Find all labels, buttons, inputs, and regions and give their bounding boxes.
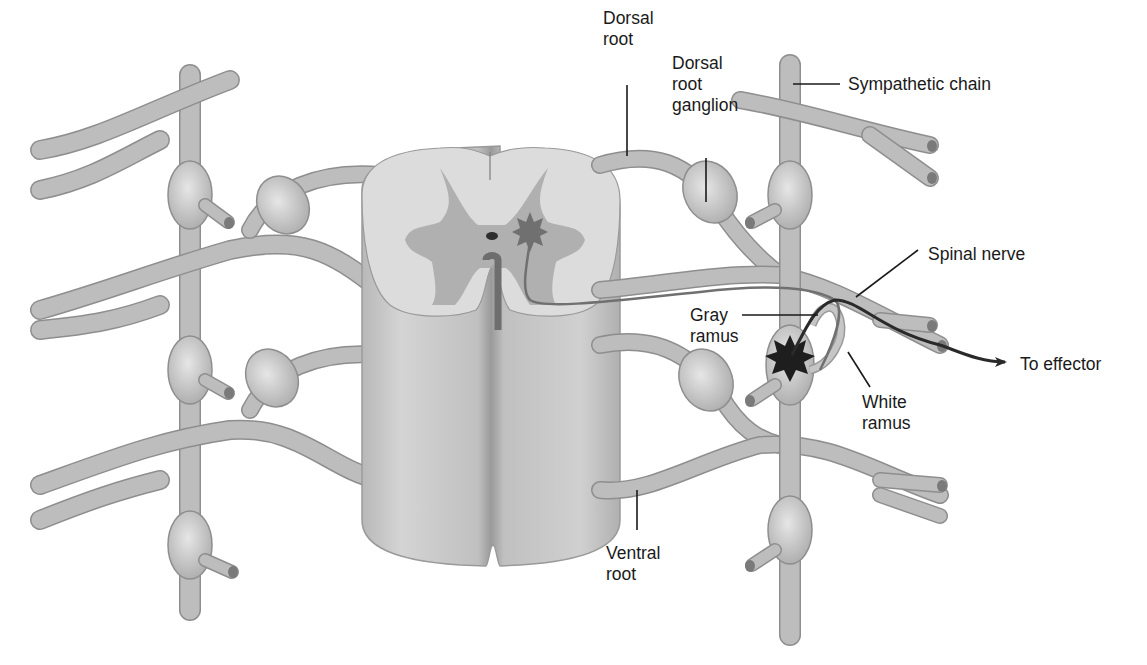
label-sympathetic-chain: Sympathetic chain [848, 74, 991, 95]
diagram-illustration [0, 0, 1147, 665]
spinal-cord [362, 146, 620, 566]
left-roots [235, 167, 380, 417]
label-dorsal-root: Dorsal root [603, 8, 654, 50]
right-sympathetic-chain [740, 65, 947, 635]
label-spinal-nerve: Spinal nerve [928, 244, 1025, 265]
label-to-effector: To effector [1020, 354, 1101, 375]
label-white-ramus: White ramus [862, 392, 911, 434]
label-gray-ramus: Gray ramus [690, 305, 739, 347]
left-sympathetic-chain [40, 75, 380, 610]
label-dorsal-root-ganglion: Dorsal root ganglion [672, 53, 738, 116]
spinal-cord-sympathetic-diagram: Dorsal root Dorsal root ganglion Sympath… [0, 0, 1147, 665]
label-ventral-root: Ventral root [606, 543, 660, 585]
